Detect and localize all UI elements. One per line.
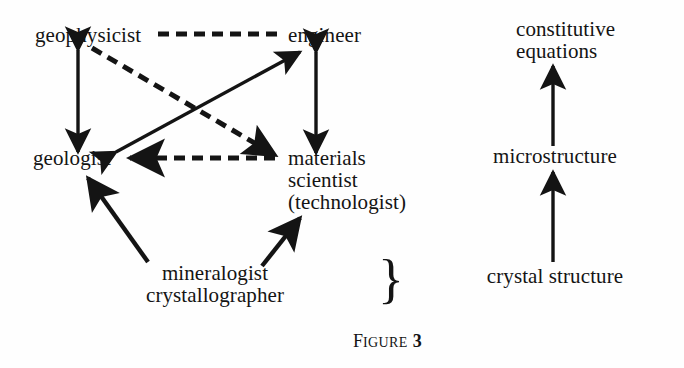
figure-caption-prefix: F (353, 331, 363, 351)
node-crystallographer-line2: crystallographer (146, 284, 284, 306)
node-constitutive-equations[interactable]: constitutive equations (516, 18, 615, 62)
edge-geophysicist-materials-scientist (92, 48, 275, 155)
node-geophysicist-label: geophysicist (35, 24, 141, 46)
figure-caption: FIGURE3 (353, 331, 422, 352)
node-geophysicist[interactable]: geophysicist (35, 24, 141, 46)
node-mineralogist-crystallographer[interactable]: mineralogist crystallographer (146, 262, 284, 306)
figure-caption-number: 3 (408, 331, 422, 351)
node-constitutive-equations-line2: equations (516, 40, 615, 62)
curly-brace: } (378, 252, 404, 306)
node-engineer[interactable]: engineer (288, 24, 361, 46)
node-geologist-label: geologist (33, 147, 111, 169)
node-crystal-structure-label: crystal structure (487, 265, 623, 287)
node-microstructure[interactable]: microstructure (493, 145, 617, 167)
node-mineralogist-line1: mineralogist (146, 262, 284, 284)
node-engineer-label: engineer (288, 24, 361, 46)
curly-brace-glyph: } (378, 249, 404, 309)
node-geologist[interactable]: geologist (33, 147, 111, 169)
figure-caption-word: IGURE (363, 335, 408, 350)
edge-mineralogist-geologist (88, 178, 148, 262)
node-crystal-structure[interactable]: crystal structure (487, 265, 623, 287)
node-materials-scientist-line3: (technologist) (288, 191, 406, 213)
node-materials-scientist[interactable]: materials scientist (technologist) (288, 147, 406, 213)
edge-mineralogist-materials-scientist (262, 218, 300, 266)
node-materials-scientist-line2: scientist (288, 169, 406, 191)
node-materials-scientist-line1: materials (288, 147, 406, 169)
node-constitutive-equations-line1: constitutive (516, 18, 615, 40)
edge-geologist-engineer (116, 52, 300, 152)
node-microstructure-label: microstructure (493, 145, 617, 167)
figure-3-diagram: geophysicist engineer geologist material… (0, 0, 684, 368)
